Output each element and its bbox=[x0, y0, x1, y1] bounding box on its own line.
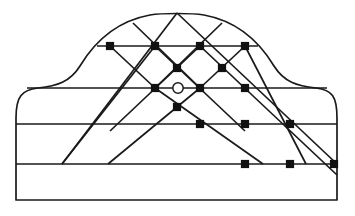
node-c1-c bbox=[196, 42, 204, 50]
node-c4-b bbox=[286, 160, 294, 168]
node-c2-a bbox=[151, 84, 159, 92]
node-c1-d bbox=[241, 42, 249, 50]
node-mid-upper-right bbox=[218, 64, 226, 72]
node-c3-b bbox=[241, 120, 249, 128]
node-c3-c bbox=[286, 120, 294, 128]
node-c1-b bbox=[151, 42, 159, 50]
node-c4-a bbox=[241, 160, 249, 168]
node-mid-lower bbox=[173, 103, 181, 111]
node-c2-c bbox=[241, 84, 249, 92]
figure-root bbox=[0, 0, 355, 216]
node-c3-a bbox=[196, 120, 204, 128]
node-c2-b bbox=[196, 84, 204, 92]
node-c4-c bbox=[330, 160, 338, 168]
node-mid-upper-left bbox=[173, 64, 181, 72]
centre-ring bbox=[173, 83, 183, 93]
node-c1-a bbox=[106, 42, 114, 50]
lattice-diagram bbox=[0, 0, 355, 216]
